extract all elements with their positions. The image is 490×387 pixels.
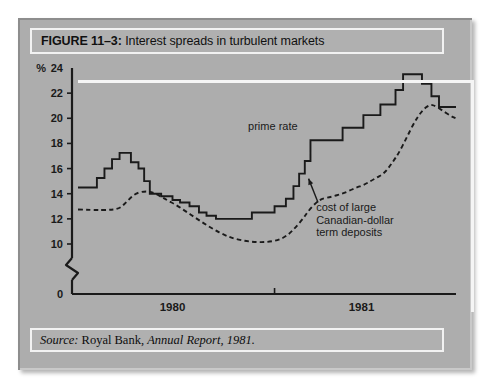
source-organization: Royal Bank, [82, 333, 145, 347]
y-tick-label: 22 [51, 87, 63, 99]
annotation-arrowhead [308, 179, 313, 186]
source-publication: Annual Report, 1981. [147, 333, 255, 347]
figure-root: FIGURE 11–3: Interest spreads in turbule… [0, 0, 490, 387]
y-axis-unit-label: % [36, 62, 46, 74]
x-tick-label: 1981 [349, 301, 375, 313]
figure-source-bar: Source: Royal Bank, Annual Report, 1981. [30, 328, 444, 352]
y-tick-label: 16 [51, 163, 63, 175]
source-prefix: Source: [40, 333, 78, 347]
figure-panel: FIGURE 11–3: Interest spreads in turbule… [18, 18, 472, 370]
y-tick-label: 20 [51, 112, 63, 124]
chart-layer: 01012141618202224%19801981prime ratecost… [36, 62, 456, 313]
chart-annotation-label: cost of large [316, 201, 376, 213]
chart-annotation-label: term deposits [316, 226, 383, 238]
chart-annotation-label: Canadian-dollar [316, 214, 394, 226]
series-line [78, 74, 456, 219]
chart-canvas: 01012141618202224%19801981prime ratecost… [18, 18, 472, 370]
y-tick-label: 14 [51, 188, 64, 200]
y-tick-label: 10 [51, 238, 63, 250]
y-tick-label: 0 [57, 288, 63, 300]
x-tick-label: 1980 [160, 301, 186, 313]
chart-annotation-label: prime rate [248, 120, 298, 132]
y-tick-label: 18 [51, 137, 63, 149]
y-tick-label: 24 [51, 62, 64, 74]
y-tick-label: 12 [51, 213, 63, 225]
figure-source-text: Source: Royal Bank, Annual Report, 1981. [32, 333, 255, 348]
